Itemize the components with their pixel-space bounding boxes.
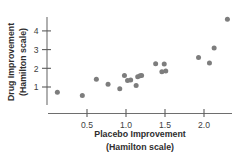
x-axis-title-line2: (Hamilton scale) [106, 142, 174, 152]
data-points-group [55, 17, 230, 98]
data-point [225, 17, 230, 22]
data-point [153, 61, 158, 66]
data-point [94, 77, 99, 82]
y-axis-title-line1: Drug Improvement [6, 23, 16, 101]
y-tick-label: 3 [34, 45, 39, 55]
chart-canvas: 0.51.01.52.01234 Placebo Improvement(Ham… [0, 0, 238, 165]
y-tick-label: 4 [34, 26, 39, 36]
axes-group [47, 17, 232, 114]
data-point [139, 73, 144, 78]
data-point [162, 62, 167, 67]
data-point [117, 86, 122, 91]
data-point [122, 73, 127, 78]
x-axis-title-line1: Placebo Improvement [94, 129, 185, 139]
x-tick-label: 1.5 [159, 120, 171, 130]
x-tick-label: 2.0 [198, 120, 210, 130]
scatter-plot-figure: 0.51.01.52.01234 Placebo Improvement(Ham… [0, 0, 238, 165]
data-point [163, 69, 168, 74]
data-point [212, 46, 217, 51]
y-axis-title-line2: (Hamilton scale) [18, 28, 28, 96]
data-point [134, 83, 139, 88]
data-point [55, 90, 60, 95]
x-tick-label: 1.0 [120, 120, 132, 130]
data-point [106, 82, 111, 87]
data-point [196, 55, 201, 60]
x-tick-label: 0.5 [81, 120, 93, 130]
data-point [207, 61, 212, 66]
plot-area: 0.51.01.52.01234 Placebo Improvement(Ham… [0, 0, 238, 165]
data-point [128, 77, 133, 82]
data-point [80, 93, 85, 98]
y-tick-label: 2 [34, 64, 39, 74]
y-tick-label: 1 [34, 82, 39, 92]
